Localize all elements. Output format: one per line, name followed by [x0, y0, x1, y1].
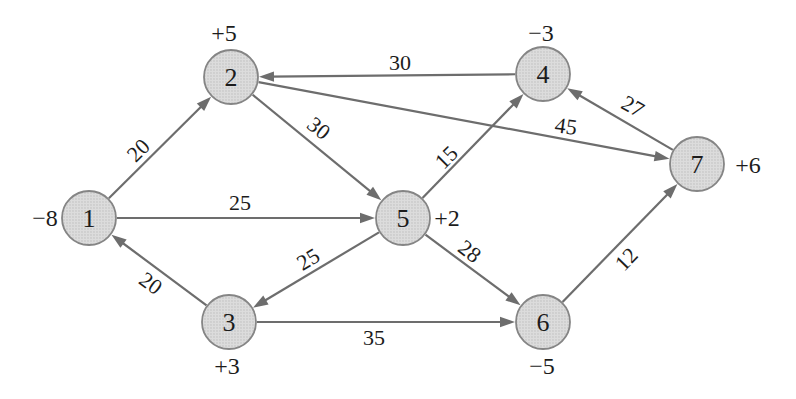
- node-2: 2+5: [204, 20, 258, 104]
- edge-weight-label: 25: [229, 190, 251, 215]
- edge-weight-label: 35: [363, 325, 385, 350]
- edge-5-to-4: 15: [423, 94, 524, 198]
- node-supply-label: −8: [32, 205, 58, 231]
- node-id-label: 3: [223, 308, 236, 337]
- arrowhead-icon: [253, 295, 269, 307]
- edge-3-to-6: 35: [257, 317, 515, 350]
- arrowhead-icon: [567, 88, 583, 100]
- arrowhead-icon: [360, 213, 375, 223]
- edge-weight-label: 28: [454, 235, 487, 268]
- edge-5-to-6: 28: [425, 235, 520, 306]
- edge-2-to-5: 30: [253, 95, 382, 200]
- edge-3-to-1: 20: [111, 235, 206, 306]
- arrowhead-icon: [500, 317, 515, 327]
- edge-1-to-5: 25: [117, 190, 375, 224]
- node-supply-label: −5: [529, 353, 555, 379]
- edge-1-to-2: 20: [109, 97, 211, 199]
- edge-weight-label: 15: [430, 141, 463, 174]
- node-3: 3+3: [202, 295, 256, 379]
- node-id-label: 6: [537, 308, 550, 337]
- edge-4-to-2: 30: [259, 50, 515, 82]
- edge-6-to-7: 12: [563, 184, 678, 302]
- node-6: 6−5: [516, 295, 570, 379]
- node-id-label: 4: [537, 60, 550, 89]
- edge-5-to-3: 25: [253, 232, 379, 307]
- edge-weight-label: 27: [617, 90, 648, 123]
- flow-network-svg: 202520303045152725283512 1−82+53+34−35+2…: [0, 0, 796, 399]
- arrowhead-icon: [654, 151, 670, 161]
- node-supply-label: +6: [735, 152, 761, 178]
- node-id-label: 2: [225, 63, 238, 92]
- edge-weight-label: 20: [122, 134, 155, 167]
- edge-weight-label: 45: [553, 112, 578, 140]
- node-1: 1−8: [32, 191, 116, 245]
- node-7: 7+6: [670, 137, 761, 191]
- node-supply-label: +3: [214, 353, 240, 379]
- node-supply-label: +5: [211, 20, 237, 46]
- arrowhead-icon: [111, 235, 126, 248]
- node-id-label: 7: [691, 150, 704, 179]
- node-id-label: 5: [397, 204, 410, 233]
- edge-7-to-4: 27: [567, 88, 673, 150]
- node-4: 4−3: [516, 20, 570, 101]
- node-id-label: 1: [83, 204, 96, 233]
- arrowhead-icon: [505, 292, 520, 305]
- node-supply-label: +2: [434, 205, 460, 231]
- edge-weight-label: 25: [292, 243, 324, 276]
- node-supply-label: −3: [528, 20, 554, 46]
- arrowhead-icon: [259, 71, 274, 81]
- flow-network-figure: 202520303045152725283512 1−82+53+34−35+2…: [0, 0, 796, 399]
- node-5: 5+2: [376, 191, 460, 245]
- edge-weight-label: 30: [389, 50, 411, 75]
